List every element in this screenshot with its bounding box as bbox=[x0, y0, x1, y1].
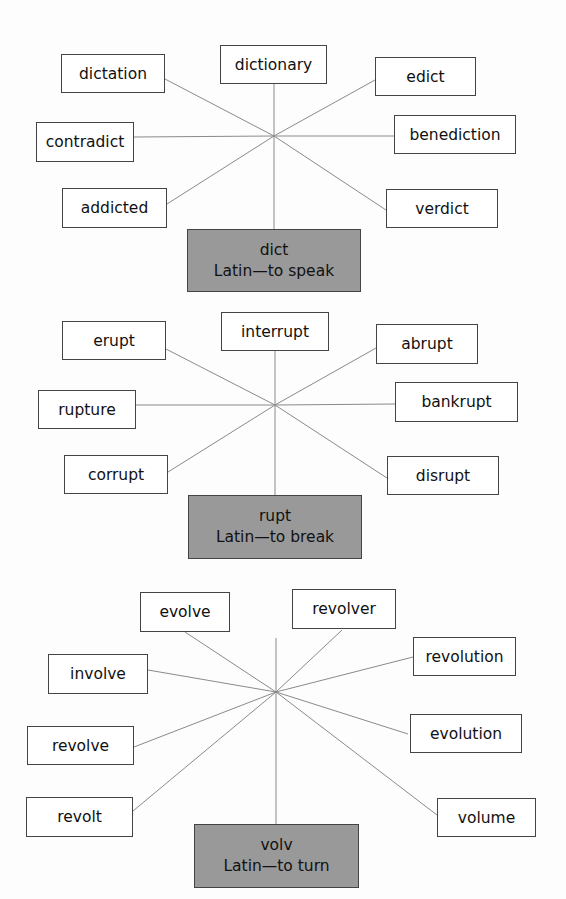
word-label: disrupt bbox=[416, 467, 470, 485]
word-box-evolution: evolution bbox=[410, 714, 522, 753]
word-label: rupture bbox=[58, 401, 116, 419]
word-box-involve: involve bbox=[48, 654, 148, 694]
word-label: dictionary bbox=[235, 56, 312, 74]
word-label: benediction bbox=[409, 126, 500, 144]
word-label: dictation bbox=[79, 65, 147, 83]
word-box-corrupt: corrupt bbox=[64, 455, 168, 494]
root-box-rupt: rupt Latin—to break bbox=[188, 495, 362, 559]
word-box-bankrupt: bankrupt bbox=[395, 382, 518, 422]
root-label: rupt bbox=[259, 506, 291, 527]
word-box-evolve: evolve bbox=[140, 592, 230, 632]
word-label: abrupt bbox=[401, 335, 452, 353]
root-meaning: Latin—to turn bbox=[223, 856, 329, 877]
word-label: interrupt bbox=[241, 323, 309, 341]
word-box-volume: volume bbox=[437, 798, 536, 837]
word-box-dictionary: dictionary bbox=[220, 45, 327, 84]
word-label: volume bbox=[458, 809, 515, 827]
root-meaning: Latin—to break bbox=[216, 527, 334, 548]
word-box-rupture: rupture bbox=[38, 390, 136, 429]
word-box-dictation: dictation bbox=[61, 54, 165, 93]
word-box-disrupt: disrupt bbox=[387, 456, 499, 495]
word-label: erupt bbox=[93, 332, 135, 350]
word-box-revolution: revolution bbox=[413, 637, 516, 676]
word-box-revolve: revolve bbox=[27, 726, 134, 765]
word-label: revolve bbox=[52, 737, 109, 755]
word-box-edict: edict bbox=[375, 57, 476, 96]
word-label: evolution bbox=[430, 725, 502, 743]
root-box-dict: dict Latin—to speak bbox=[187, 229, 361, 292]
word-box-erupt: erupt bbox=[62, 321, 166, 360]
word-label: involve bbox=[70, 665, 126, 683]
word-label: revolution bbox=[425, 648, 503, 666]
word-label: verdict bbox=[415, 200, 469, 218]
word-label: corrupt bbox=[88, 466, 144, 484]
word-box-contradict: contradict bbox=[36, 122, 134, 162]
word-box-abrupt: abrupt bbox=[376, 324, 478, 364]
word-label: revolver bbox=[312, 600, 376, 618]
word-box-benediction: benediction bbox=[394, 115, 516, 154]
word-box-addicted: addicted bbox=[62, 188, 167, 228]
word-box-interrupt: interrupt bbox=[221, 312, 329, 351]
root-label: dict bbox=[260, 240, 289, 261]
word-box-verdict: verdict bbox=[386, 189, 498, 228]
word-label: addicted bbox=[81, 199, 148, 217]
word-label: contradict bbox=[46, 133, 125, 151]
root-label: volv bbox=[260, 835, 292, 856]
word-label: evolve bbox=[159, 603, 210, 621]
root-box-volv: volv Latin—to turn bbox=[194, 824, 359, 888]
root-meaning: Latin—to speak bbox=[214, 261, 334, 282]
word-box-revolt: revolt bbox=[26, 797, 133, 837]
word-label: edict bbox=[406, 68, 444, 86]
word-label: bankrupt bbox=[421, 393, 491, 411]
word-label: revolt bbox=[57, 808, 102, 826]
word-box-revolver: revolver bbox=[292, 589, 396, 629]
